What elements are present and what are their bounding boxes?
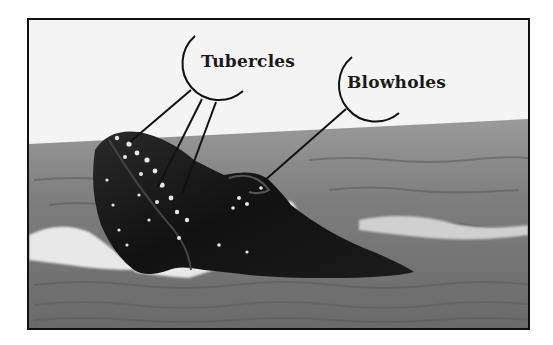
- label-tubercles: Tubercles: [201, 51, 295, 71]
- label-blowholes: Blowholes: [347, 72, 446, 92]
- photo-frame: Tubercles Blowholes: [27, 18, 530, 330]
